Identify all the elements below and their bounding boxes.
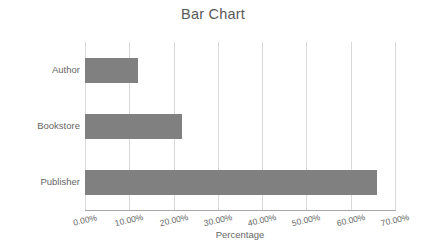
gridline-7000: [395, 42, 396, 210]
x-tick-label-3000: 30.00%: [196, 210, 239, 229]
y-tick-label-publisher: Publisher: [4, 176, 80, 187]
x-tick-label-000: 0.00%: [63, 210, 106, 229]
chart-title: Bar Chart: [0, 6, 426, 22]
x-axis-line: [85, 210, 396, 211]
x-axis-tick-labels: 0.00%10.00%20.00%30.00%40.00%50.00%60.00…: [85, 212, 396, 230]
y-tick-label-bookstore: Bookstore: [4, 120, 80, 131]
x-tick-label-2000: 20.00%: [152, 210, 195, 229]
plot-area: [85, 42, 395, 210]
x-tick-label-6000: 60.00%: [329, 210, 372, 229]
x-tick-label-4000: 40.00%: [241, 210, 284, 229]
x-axis-title: Percentage: [85, 229, 395, 240]
y-tick-label-author: Author: [4, 64, 80, 75]
x-tick-label-1000: 10.00%: [108, 210, 151, 229]
bar-chart: Bar Chart Revenue Category AuthorBooksto…: [0, 0, 426, 251]
bar-bookstore: [85, 114, 182, 139]
bar-author: [85, 58, 138, 83]
x-tick-label-7000: 70.00%: [373, 210, 416, 229]
y-axis-tick-labels: AuthorBookstorePublisher: [0, 42, 80, 210]
x-tick-label-5000: 50.00%: [285, 210, 328, 229]
bar-publisher: [85, 170, 377, 195]
